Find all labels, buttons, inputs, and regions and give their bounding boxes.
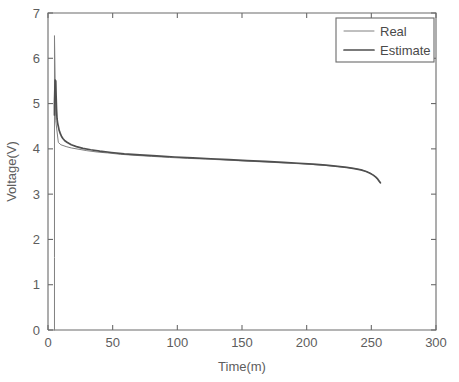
- y-tick-label-3: 3: [33, 187, 40, 202]
- data-series: [54, 36, 380, 330]
- chart-figure: 05010015020025030001234567Time(m)Voltage…: [0, 0, 459, 382]
- y-axis-title: Voltage(V): [4, 141, 19, 202]
- series-line-real: [54, 36, 380, 330]
- x-tick-label-50: 50: [105, 335, 119, 350]
- legend-label-estimate: Estimate: [380, 43, 431, 58]
- legend-label-real: Real: [380, 24, 407, 39]
- x-axis-title: Time(m): [218, 359, 266, 374]
- x-tick-label-250: 250: [360, 335, 382, 350]
- x-tick-label-100: 100: [166, 335, 188, 350]
- line-chart: 05010015020025030001234567Time(m)Voltage…: [0, 0, 459, 382]
- y-tick-label-4: 4: [33, 141, 40, 156]
- y-tick-label-0: 0: [33, 323, 40, 338]
- y-tick-label-5: 5: [33, 96, 40, 111]
- x-tick-label-200: 200: [296, 335, 318, 350]
- y-tick-label-7: 7: [33, 6, 40, 21]
- series-line-estimate: [54, 80, 380, 183]
- x-tick-label-0: 0: [44, 335, 51, 350]
- x-tick-label-150: 150: [231, 335, 253, 350]
- y-tick-label-1: 1: [33, 277, 40, 292]
- chart-legend[interactable]: RealEstimate: [336, 18, 434, 62]
- y-tick-label-2: 2: [33, 232, 40, 247]
- x-tick-label-300: 300: [425, 335, 447, 350]
- y-tick-label-6: 6: [33, 51, 40, 66]
